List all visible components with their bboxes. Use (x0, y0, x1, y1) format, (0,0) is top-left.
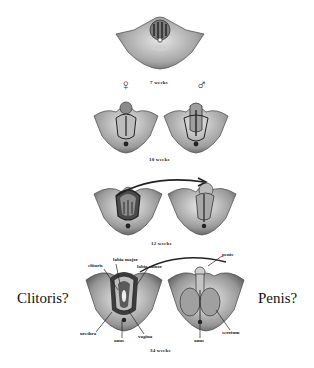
label-vagina: vagina (138, 334, 152, 339)
stage-label-34-weeks: 34 weeks (150, 348, 171, 353)
label-anus-male: anus (194, 338, 204, 343)
label-labia-minor: labia minor (137, 264, 162, 269)
label-clitoris: clitoris (88, 263, 103, 268)
annotation-penis-question: Penis? (258, 290, 297, 307)
label-leader-lines (0, 0, 314, 368)
label-labia-major: labia major (113, 257, 138, 262)
label-penis: penis (222, 252, 233, 257)
annotation-clitoris-question: Clitoris? (17, 290, 69, 307)
label-anus-female: anus (114, 338, 124, 343)
label-scrotum: scrotum (222, 330, 239, 335)
label-urethra: urethra (80, 331, 96, 336)
